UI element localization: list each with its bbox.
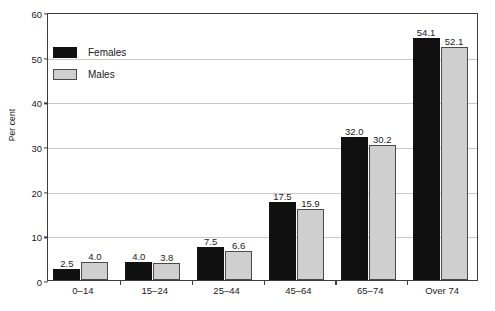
bar-females: 7.5 bbox=[197, 247, 224, 281]
x-tick-mark bbox=[335, 280, 336, 285]
y-tick-label: 10 bbox=[31, 232, 42, 243]
bar-females: 2.5 bbox=[53, 269, 80, 280]
bar-value-label: 3.8 bbox=[160, 252, 173, 263]
bar-value-label: 4.0 bbox=[88, 251, 101, 262]
y-tick-label: 50 bbox=[31, 53, 42, 64]
legend: Females Males bbox=[53, 41, 126, 85]
legend-label-females: Females bbox=[88, 47, 126, 58]
bar-value-label: 30.2 bbox=[373, 134, 392, 145]
bar-value-label: 2.5 bbox=[60, 258, 73, 269]
x-tick-label: 65–74 bbox=[357, 285, 383, 296]
bar-value-label: 54.1 bbox=[417, 27, 436, 38]
legend-swatch-males-icon bbox=[53, 69, 77, 80]
x-tick-label: 15–24 bbox=[142, 285, 168, 296]
legend-item-males: Males bbox=[53, 63, 126, 85]
legend-label-males: Males bbox=[88, 69, 115, 80]
y-tick-mark bbox=[44, 281, 48, 282]
bar-males: 3.8 bbox=[153, 263, 180, 280]
bar-value-label: 7.5 bbox=[204, 236, 217, 247]
y-tick-mark bbox=[44, 103, 48, 104]
bar-chart: Per cent 01020304050602.54.04.03.87.56.6… bbox=[0, 0, 495, 311]
bar-value-label: 15.9 bbox=[301, 198, 320, 209]
y-tick-mark bbox=[44, 237, 48, 238]
y-axis-title: Per cent bbox=[7, 95, 17, 155]
bar-males: 52.1 bbox=[441, 47, 468, 280]
legend-item-females: Females bbox=[53, 41, 126, 63]
y-tick-mark bbox=[44, 13, 48, 14]
bar-males: 4.0 bbox=[81, 262, 108, 280]
bar-females: 54.1 bbox=[413, 38, 440, 280]
bar-value-label: 6.6 bbox=[232, 240, 245, 251]
x-tick-mark bbox=[264, 280, 265, 285]
y-tick-label: 0 bbox=[37, 277, 42, 288]
bar-value-label: 32.0 bbox=[345, 126, 364, 137]
bar-males: 30.2 bbox=[369, 145, 396, 280]
y-tick-label: 60 bbox=[31, 9, 42, 20]
x-tick-mark bbox=[120, 280, 121, 285]
x-tick-label: Over 74 bbox=[425, 285, 459, 296]
legend-swatch-females-icon bbox=[53, 47, 77, 58]
x-tick-label: 45–64 bbox=[285, 285, 311, 296]
bar-females: 17.5 bbox=[269, 202, 296, 280]
y-tick-label: 40 bbox=[31, 98, 42, 109]
bar-value-label: 4.0 bbox=[132, 251, 145, 262]
bar-value-label: 52.1 bbox=[445, 36, 464, 47]
x-tick-mark bbox=[407, 280, 408, 285]
bar-females: 32.0 bbox=[341, 137, 368, 280]
bar-males: 6.6 bbox=[225, 251, 252, 280]
x-tick-label: 25–44 bbox=[213, 285, 239, 296]
x-tick-mark bbox=[192, 280, 193, 285]
bar-males: 15.9 bbox=[297, 209, 324, 280]
y-tick-mark bbox=[44, 147, 48, 148]
x-tick-label: 0–14 bbox=[72, 285, 93, 296]
y-tick-mark bbox=[44, 58, 48, 59]
bar-value-label: 17.5 bbox=[273, 191, 292, 202]
y-tick-label: 30 bbox=[31, 143, 42, 154]
y-tick-label: 20 bbox=[31, 187, 42, 198]
y-tick-mark bbox=[44, 192, 48, 193]
bar-females: 4.0 bbox=[125, 262, 152, 280]
